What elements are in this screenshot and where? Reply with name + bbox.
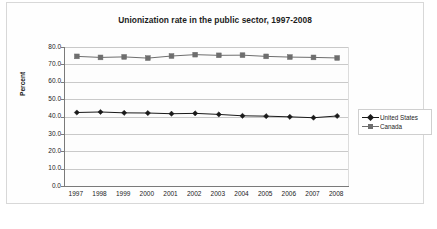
x-axis-tick-labels: 1997199819992000200120022003200420052006… <box>64 190 348 202</box>
plot-area <box>64 47 349 187</box>
chart-container: Unionization rate in the public sector, … <box>6 2 424 204</box>
legend-label: Canada <box>379 123 402 130</box>
y-axis-tick-label: 20.0 <box>35 148 61 155</box>
y-axis-tick-mark <box>61 169 64 170</box>
data-point-marker <box>193 111 198 116</box>
y-axis-tick-label: 10.0 <box>35 165 61 172</box>
data-point-marker <box>74 54 79 59</box>
data-point-marker <box>311 55 316 60</box>
legend-item-canada[interactable]: Canada <box>362 122 428 131</box>
x-axis-tick-label: 2004 <box>234 190 248 197</box>
data-point-marker <box>264 54 269 59</box>
y-axis-tick-mark <box>61 64 64 65</box>
y-axis-tick-mark <box>61 151 64 152</box>
x-axis-tick-label: 2005 <box>258 190 272 197</box>
x-axis-tick-label: 2007 <box>305 190 319 197</box>
x-axis-tick-label: 2008 <box>329 190 343 197</box>
series-line <box>77 55 337 58</box>
data-point-marker <box>193 52 198 57</box>
data-point-marker <box>169 54 174 59</box>
x-axis-tick-label: 2006 <box>282 190 296 197</box>
data-point-marker <box>122 55 127 60</box>
data-point-marker <box>335 113 340 118</box>
data-point-marker <box>240 53 245 58</box>
data-point-marker <box>216 112 221 117</box>
data-point-marker <box>264 114 269 119</box>
y-axis-tick-label: 40.0 <box>35 113 61 120</box>
data-point-marker <box>145 56 150 61</box>
x-axis-tick-label: 1999 <box>116 190 130 197</box>
y-axis-tick-label: 70.0 <box>35 61 61 68</box>
data-point-marker <box>287 55 292 60</box>
chart-legend: United States Canada <box>358 109 432 135</box>
x-axis-tick-label: 1998 <box>92 190 106 197</box>
y-axis-tick-label: 30.0 <box>35 131 61 138</box>
data-point-marker <box>169 111 174 116</box>
data-point-marker <box>311 115 316 120</box>
y-axis-tick-mark <box>61 82 64 83</box>
legend-label: United States <box>379 114 418 121</box>
data-point-marker <box>122 110 127 115</box>
data-point-marker <box>98 55 103 60</box>
y-axis-tick-label: 0.0 <box>35 183 61 190</box>
x-axis-tick-label: 2003 <box>211 190 225 197</box>
y-axis-tick-mark <box>61 47 64 48</box>
data-point-marker <box>287 114 292 119</box>
x-axis-tick-label: 2001 <box>163 190 177 197</box>
data-point-marker <box>240 113 245 118</box>
y-axis-tick-label: 60.0 <box>35 78 61 85</box>
x-axis-tick-label: 2000 <box>140 190 154 197</box>
series-united-states <box>74 109 340 120</box>
y-axis-tick-label: 50.0 <box>35 96 61 103</box>
series-line <box>77 112 337 118</box>
y-axis-tick-mark <box>61 117 64 118</box>
series-layer <box>65 47 349 186</box>
chart-title: Unionization rate in the public sector, … <box>7 15 423 25</box>
y-axis-tick-mark <box>61 186 64 187</box>
data-point-marker <box>145 110 150 115</box>
data-point-marker <box>98 109 103 114</box>
y-axis-tick-mark <box>61 134 64 135</box>
series-canada <box>74 52 339 60</box>
x-axis-tick-label: 2002 <box>187 190 201 197</box>
x-axis-tick-label: 1997 <box>69 190 83 197</box>
y-axis-tick-label: 80.0 <box>35 44 61 51</box>
data-point-marker <box>335 56 340 61</box>
y-axis-title: Percent <box>19 72 26 96</box>
legend-item-united-states[interactable]: United States <box>362 113 428 122</box>
legend-marker-diamond-icon <box>362 113 379 122</box>
data-point-marker <box>216 53 221 58</box>
y-axis-tick-labels: 80.070.060.050.040.030.020.010.00.0 <box>31 47 61 186</box>
legend-marker-square-icon <box>362 122 379 131</box>
y-axis-tick-mark <box>61 99 64 100</box>
data-point-marker <box>74 110 79 115</box>
